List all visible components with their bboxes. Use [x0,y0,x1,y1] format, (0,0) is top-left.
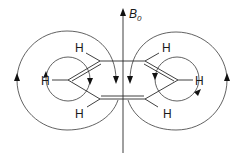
hydrogen-top-left: H [75,41,84,55]
hydrogen-right: H [195,74,204,88]
field-label: B [129,7,137,21]
hydrogen-bottom-right: H [163,107,172,121]
left-inner-arrow-down-icon [87,78,93,85]
left-outer-arrow-up-icon [14,73,20,81]
field-subscript: 0 [137,14,142,23]
hydrogen-labels: H H H H H H [41,41,204,121]
right-inner-arrow-upright-icon [194,89,201,96]
left-outer-arrow-down-icon [113,76,119,84]
hydrogen-left: H [41,74,50,88]
left-inner-loop [46,57,90,101]
benzene-ring-current-diagram: B 0 [0,0,238,162]
right-inner-arrow-down-icon [152,73,158,80]
hydrogen-bottom-left: H [75,107,84,121]
left-outer-field-loop [17,31,118,130]
right-outer-field-loop [128,32,227,130]
hydrogen-top-right: H [162,41,171,55]
inner-current-loops [43,57,201,101]
field-arrow-up-icon [120,8,126,16]
right-outer-arrow-up-icon [224,73,230,81]
right-outer-arrow-down-icon [127,76,133,84]
